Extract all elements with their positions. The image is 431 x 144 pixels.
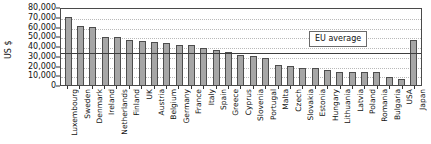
bar xyxy=(410,40,417,85)
x-label-cell: Czech xyxy=(284,89,296,144)
x-label-cell: Lithuania xyxy=(334,89,346,144)
bar-cell xyxy=(99,9,111,85)
bar xyxy=(336,72,343,85)
x-label-cell: Bulgaria xyxy=(384,89,396,144)
x-label-cell: Ireland xyxy=(98,89,110,144)
bar-cell xyxy=(62,9,74,85)
x-label-cell: Netherlands xyxy=(111,89,123,144)
y-tick-label: 70,000 xyxy=(28,14,56,22)
bar xyxy=(114,37,121,85)
bar xyxy=(65,17,72,85)
y-tick-label: 30,000 xyxy=(28,53,56,61)
x-label-cell: Belgium xyxy=(160,89,172,144)
bar-cell xyxy=(247,9,259,85)
x-label-cell: France xyxy=(185,89,197,144)
bar-cell xyxy=(346,9,358,85)
bar-chart: US $ 80,00070,00060,00050,00040,00030,00… xyxy=(0,0,431,144)
bar-cell xyxy=(321,9,333,85)
bar xyxy=(299,68,306,85)
bar-cell xyxy=(235,9,247,85)
x-label-cell: Slovakia xyxy=(297,89,309,144)
bar-cell xyxy=(395,9,407,85)
bar-cell xyxy=(358,9,370,85)
x-label-cell: Malta xyxy=(272,89,284,144)
x-label-cell: USA xyxy=(396,89,408,144)
bar-cell xyxy=(87,9,99,85)
x-label-cell: Slovenia xyxy=(247,89,259,144)
bar-cell xyxy=(173,9,185,85)
bar xyxy=(361,72,368,85)
bar xyxy=(225,52,232,85)
bar xyxy=(188,45,195,85)
bar-cell xyxy=(185,9,197,85)
bar xyxy=(250,56,257,85)
x-label-cell: Germany xyxy=(173,89,185,144)
bar xyxy=(213,50,220,85)
bar xyxy=(324,70,331,85)
y-tick-label: 60,000 xyxy=(28,24,56,32)
bar-cell xyxy=(198,9,210,85)
bar-cell xyxy=(222,9,234,85)
bar-cell xyxy=(284,9,296,85)
bar xyxy=(139,41,146,85)
y-tick-label: 50,000 xyxy=(28,33,56,41)
bar xyxy=(386,77,393,85)
bar xyxy=(275,65,282,85)
x-label-cell: Sweden xyxy=(73,89,85,144)
y-tick-label: 10,000 xyxy=(28,72,56,80)
bar xyxy=(287,66,294,85)
x-label-cell: Finland xyxy=(123,89,135,144)
x-label-cell: Greece xyxy=(222,89,234,144)
bar-cell xyxy=(297,9,309,85)
bar xyxy=(262,58,269,85)
y-axis-title: US $ xyxy=(1,30,15,70)
bar-cell xyxy=(136,9,148,85)
bar-cell xyxy=(260,9,272,85)
bar xyxy=(398,79,405,85)
x-label-cell: Italy xyxy=(197,89,209,144)
x-label-cell: Austria xyxy=(148,89,160,144)
bar-cell xyxy=(383,9,395,85)
bar xyxy=(237,55,244,85)
bar-series xyxy=(61,9,421,85)
bar xyxy=(163,43,170,85)
bar-cell xyxy=(111,9,123,85)
x-label-cell: Luxembourg xyxy=(61,89,73,144)
x-label-cell: Poland xyxy=(359,89,371,144)
x-label-cell: Estonia xyxy=(309,89,321,144)
bar xyxy=(349,72,356,85)
bar xyxy=(77,26,84,85)
x-label-cell: Hungary xyxy=(322,89,334,144)
bar-cell xyxy=(161,9,173,85)
bar-cell xyxy=(334,9,346,85)
bar xyxy=(126,40,133,85)
x-label-cell: Spain xyxy=(210,89,222,144)
bar-cell xyxy=(74,9,86,85)
x-label-cell: UK xyxy=(135,89,147,144)
bar xyxy=(312,68,319,85)
x-label-cell: Japan xyxy=(408,89,420,144)
bar-cell xyxy=(408,9,420,85)
x-label-cell: Latvia xyxy=(346,89,358,144)
bar xyxy=(102,37,109,85)
bar xyxy=(89,27,96,86)
x-axis-category-labels: LuxembourgSwedenDenmarkIrelandNetherland… xyxy=(60,89,422,144)
y-axis-tick-labels: 80,00070,00060,00050,00040,00030,00020,0… xyxy=(14,8,60,86)
y-tick-label: 20,000 xyxy=(28,63,56,71)
bar-cell xyxy=(148,9,160,85)
x-label-cell: Romania xyxy=(371,89,383,144)
bar xyxy=(151,42,158,85)
bar xyxy=(176,45,183,85)
eu-average-label: EU average xyxy=(309,31,367,47)
y-tick-label: 40,000 xyxy=(28,43,56,51)
bar-cell xyxy=(371,9,383,85)
x-label-cell: Portugal xyxy=(260,89,272,144)
y-tick-label: 80,000 xyxy=(28,4,56,12)
x-tick-label: Japan xyxy=(418,89,426,110)
bar xyxy=(373,72,380,85)
x-label-cell: Denmark xyxy=(86,89,98,144)
eu-average-line xyxy=(61,53,421,54)
plot-area: EU average xyxy=(60,8,422,86)
x-label-cell: Cyprus xyxy=(235,89,247,144)
bar-cell xyxy=(272,9,284,85)
